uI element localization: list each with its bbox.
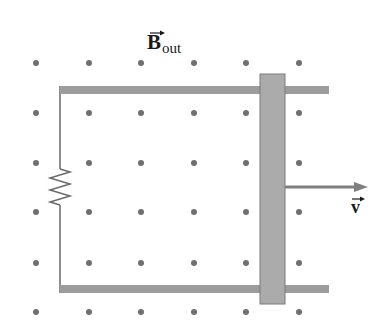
field-dot: [86, 160, 92, 166]
field-dot: [138, 209, 144, 215]
bottom-rail: [60, 285, 329, 293]
field-dot: [138, 160, 144, 166]
field-dot: [138, 260, 144, 266]
field-dot: [33, 160, 39, 166]
field-dot: [191, 309, 197, 315]
field-dot: [243, 309, 249, 315]
field-dot: [86, 110, 92, 116]
top-rail: [60, 86, 329, 94]
field-dot: [243, 160, 249, 166]
field-dot: [33, 60, 39, 66]
field-dot: [33, 209, 39, 215]
circuit-diagram: [0, 0, 384, 327]
field-dot: [86, 209, 92, 215]
field-dot: [33, 110, 39, 116]
field-dot: [243, 260, 249, 266]
field-dot: [296, 160, 302, 166]
field-dot: [243, 209, 249, 215]
field-dot: [138, 309, 144, 315]
field-dot: [86, 60, 92, 66]
field-dot: [191, 160, 197, 166]
field-dot: [243, 60, 249, 66]
field-dot: [86, 260, 92, 266]
field-dot: [138, 60, 144, 66]
field-dot: [191, 209, 197, 215]
field-dot: [296, 209, 302, 215]
field-subscript: out: [162, 40, 181, 56]
field-dot: [296, 309, 302, 315]
magnetic-field-label: Bout: [147, 30, 180, 55]
velocity-label: v: [351, 197, 360, 218]
velocity-arrow-head-icon: [354, 182, 368, 192]
field-dot: [296, 260, 302, 266]
field-dot: [243, 110, 249, 116]
field-dot: [296, 110, 302, 116]
field-dot: [33, 309, 39, 315]
field-symbol: B: [147, 30, 161, 54]
field-dot: [86, 309, 92, 315]
field-dot: [191, 110, 197, 116]
resistor-icon: [50, 169, 70, 205]
field-dot: [138, 110, 144, 116]
field-dot: [296, 60, 302, 66]
v-vector-arrowhead-icon: [360, 197, 365, 202]
field-dot: [191, 260, 197, 266]
sliding-bar: [260, 74, 285, 304]
field-dot: [33, 260, 39, 266]
field-dot: [191, 60, 197, 66]
